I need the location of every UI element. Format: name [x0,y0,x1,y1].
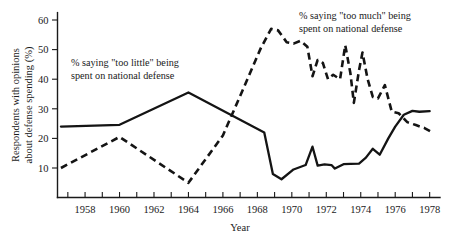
x-tick-label-1958: 1958 [75,204,96,215]
too-little-annotation: % saying "too little" beingspent on nati… [71,57,179,81]
too-much-annotation: % saying "too much" beingspent on nation… [299,10,411,34]
y-tick-label-60: 60 [38,15,49,26]
axes [58,13,441,198]
y-tick-label-40: 40 [38,74,49,85]
annotations-group: % saying "too little" beingspent on nati… [71,10,411,81]
x-axis-title: Year [230,222,250,233]
y-tick-label-20: 20 [38,133,49,144]
too-little-annotation-line2: spent on national defense [71,70,175,81]
x-tick-label-1964: 1964 [178,204,200,215]
x-tick-label-1974: 1974 [350,204,372,215]
too-little-annotation-line1: % saying "too little" being [71,57,179,68]
x-tick-label-1968: 1968 [247,204,268,215]
series-too-little-line [61,93,430,180]
y-axis-tick-labels: 102030405060 [38,15,49,174]
y-axis-ticks [52,20,58,168]
x-tick-label-1972: 1972 [316,204,337,215]
defense-spending-opinion-chart: Respondents with opinions about defense … [0,0,451,237]
x-tick-label-1970: 1970 [281,204,302,215]
y-tick-label-50: 50 [38,44,49,55]
too-much-annotation-line2: spent on national defense [299,23,403,34]
x-tick-label-1978: 1978 [419,204,440,215]
x-tick-label-1976: 1976 [385,204,406,215]
series-too-much-line [61,29,431,183]
x-tick-label-1966: 1966 [212,204,233,215]
x-axis-tick-labels: 1958196019621964196619681970197219741976… [75,204,441,215]
x-tick-label-1960: 1960 [109,204,130,215]
y-tick-label-30: 30 [38,104,49,115]
data-series-group [61,29,431,183]
plot-area: 102030405060 195819601962196419661968197… [0,0,451,237]
too-much-annotation-line1: % saying "too much" being [299,10,411,21]
y-tick-label-10: 10 [38,163,49,174]
x-tick-label-1962: 1962 [143,204,164,215]
x-axis-ticks [68,192,430,198]
